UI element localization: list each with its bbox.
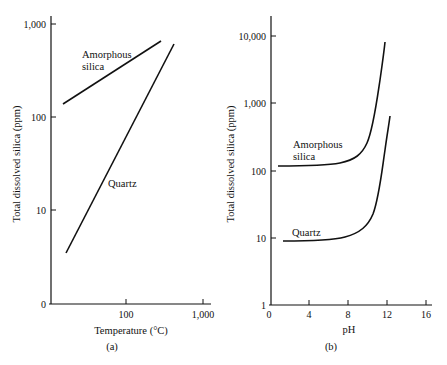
panel-b-xtick-label: 16 (421, 309, 431, 320)
panel-b-caption: (b) (325, 341, 338, 353)
panel-b-ytick-label: 1,000 (244, 98, 267, 109)
panel-a-ytick-label: 1,000 (24, 19, 47, 30)
figure: 1,000 100 10 0 100 1,000 Temperature (°C… (0, 0, 447, 365)
panel-a-ytick-label: 10 (36, 205, 46, 216)
panel-a-quartz-line (66, 44, 174, 253)
panel-b-xtick-label: 4 (307, 309, 312, 320)
panel-b-amorphous-label: Amorphous (293, 139, 343, 150)
panel-b-xtick-label: 8 (346, 309, 351, 320)
panel-a-amorphous-label: Amorphous (82, 49, 132, 60)
panel-a-x-axis-title: Temperature (°C) (94, 325, 168, 337)
panel-b-quartz-label: Quartz (292, 227, 321, 238)
panel-b-ytick-label: 10 (256, 233, 266, 244)
panel-b-quartz-curve (283, 116, 390, 241)
panel-b-y-axis-title: Total dissolved silica (ppm) (225, 105, 237, 222)
panel-a: 1,000 100 10 0 100 1,000 Temperature (°C… (11, 16, 214, 353)
panel-a-y-axis-title: Total dissolved silica (ppm) (11, 105, 23, 222)
panel-a-quartz-label: Quartz (108, 178, 137, 189)
panel-b-x-axis-title: pH (343, 324, 356, 335)
panel-a-ytick-label: 0 (41, 299, 46, 310)
panel-b-amorphous-label: silica (293, 151, 315, 162)
panel-a-amorphous-label: silica (82, 61, 104, 72)
panel-b: 10,000 1,000 100 10 1 0 4 8 12 16 pH Tot… (225, 16, 432, 353)
panel-a-caption: (a) (106, 341, 118, 353)
panel-a-ytick-label: 100 (31, 112, 46, 123)
panel-a-xtick-label: 1,000 (192, 309, 215, 320)
panel-a-xtick-label: 100 (119, 309, 134, 320)
panel-b-xtick-label: 12 (382, 309, 392, 320)
panel-b-ytick-label: 1 (261, 300, 266, 311)
panel-b-xtick-label: 0 (267, 309, 272, 320)
panel-b-ytick-label: 100 (251, 166, 266, 177)
panel-b-ytick-label: 10,000 (239, 31, 267, 42)
